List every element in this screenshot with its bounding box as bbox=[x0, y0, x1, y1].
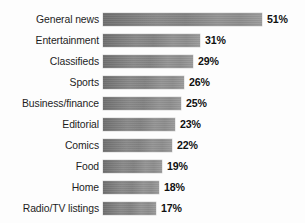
bar-row: Editorial23% bbox=[0, 118, 305, 139]
bar-value-label: 17% bbox=[161, 202, 182, 215]
bar bbox=[103, 13, 262, 26]
bar bbox=[103, 76, 184, 89]
bar-category-label: Food bbox=[0, 160, 99, 173]
bar bbox=[103, 139, 172, 152]
bar-category-label: Radio/TV listings bbox=[0, 202, 99, 215]
bar-row: Comics22% bbox=[0, 139, 305, 160]
bar-row: Business/finance25% bbox=[0, 97, 305, 118]
bar-category-label: Classifieds bbox=[0, 55, 99, 68]
bar-category-label: Business/finance bbox=[0, 97, 99, 110]
clipped-title-artifact bbox=[0, 0, 305, 5]
bar-category-label: General news bbox=[0, 13, 99, 26]
bar bbox=[103, 97, 181, 110]
bar-value-label: 31% bbox=[205, 34, 226, 47]
bar bbox=[103, 34, 200, 47]
bar-value-label: 18% bbox=[164, 181, 185, 194]
bar-value-label: 22% bbox=[177, 139, 198, 152]
bar bbox=[103, 160, 162, 173]
bar-rows: General news51%Entertainment31%Classifie… bbox=[0, 13, 305, 223]
bar-row: Sports26% bbox=[0, 76, 305, 97]
bar-row: General news51% bbox=[0, 13, 305, 34]
bar-row: Entertainment31% bbox=[0, 34, 305, 55]
bar bbox=[103, 118, 175, 131]
bar-row: Food19% bbox=[0, 160, 305, 181]
bar bbox=[103, 202, 156, 215]
bar-row: Radio/TV listings17% bbox=[0, 202, 305, 223]
bar-chart: General news51%Entertainment31%Classifie… bbox=[0, 0, 305, 223]
bar-category-label: Editorial bbox=[0, 118, 99, 131]
bar-category-label: Home bbox=[0, 181, 99, 194]
bar-category-label: Comics bbox=[0, 139, 99, 152]
bar-row: Home18% bbox=[0, 181, 305, 202]
bar-value-label: 19% bbox=[167, 160, 188, 173]
bar bbox=[103, 181, 159, 194]
bar-category-label: Entertainment bbox=[0, 34, 99, 47]
bar bbox=[103, 55, 193, 68]
bar-value-label: 25% bbox=[186, 97, 207, 110]
bar-category-label: Sports bbox=[0, 76, 99, 89]
bar-value-label: 23% bbox=[180, 118, 201, 131]
bar-value-label: 29% bbox=[198, 55, 219, 68]
bar-value-label: 26% bbox=[189, 76, 210, 89]
bar-row: Classifieds29% bbox=[0, 55, 305, 76]
bar-value-label: 51% bbox=[267, 13, 288, 26]
